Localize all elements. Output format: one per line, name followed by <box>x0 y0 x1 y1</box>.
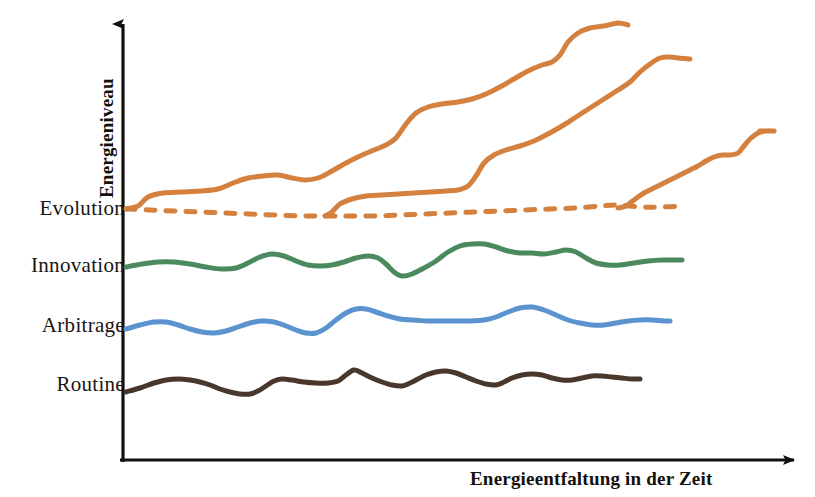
level-label-innovation: Innovation <box>31 253 125 278</box>
level-label-arbitrage: Arbitrage <box>42 313 125 338</box>
series-line-routine <box>126 370 640 394</box>
series-line-innovation <box>126 244 682 276</box>
series-line-evolution-wave-3 <box>618 131 774 208</box>
level-label-routine: Routine <box>56 372 125 397</box>
series-line-evolution-wave-1 <box>126 23 628 209</box>
chart-canvas: Energieniveau Energieentfaltung in der Z… <box>0 0 815 497</box>
series-line-arbitrage <box>126 307 670 334</box>
axes-group <box>120 24 794 462</box>
y-axis-label-text: Energieniveau <box>96 78 118 198</box>
level-label-evolution: Evolution <box>39 196 125 221</box>
chart-svg <box>0 0 815 497</box>
x-axis-label: Energieentfaltung in der Zeit <box>470 468 712 490</box>
series-line-evolution-baseline <box>126 205 685 216</box>
series-group <box>126 23 774 394</box>
y-axis-label: Energieniveau <box>0 0 14 40</box>
